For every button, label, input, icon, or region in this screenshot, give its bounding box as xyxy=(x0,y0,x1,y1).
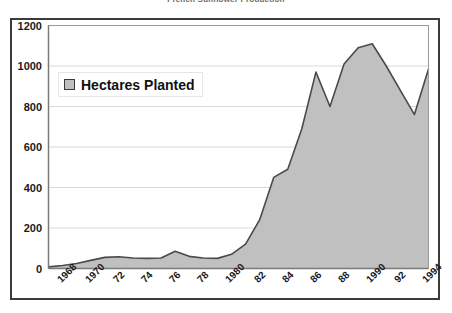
y-tick-label: 200 xyxy=(8,222,42,234)
legend-swatch-hectares-planted xyxy=(64,79,75,90)
chart-figure: French Sunflower Production 020040060080… xyxy=(0,0,452,313)
y-tick-label: 400 xyxy=(8,182,42,194)
legend-label-hectares-planted: Hectares Planted xyxy=(81,77,195,93)
y-tick-label: 1200 xyxy=(8,20,42,32)
y-tick-label: 1000 xyxy=(8,60,42,72)
y-tick-label: 800 xyxy=(8,101,42,113)
y-tick-label: 0 xyxy=(8,263,42,275)
y-tick-label: 600 xyxy=(8,141,42,153)
chart-legend: Hectares Planted xyxy=(58,72,203,97)
